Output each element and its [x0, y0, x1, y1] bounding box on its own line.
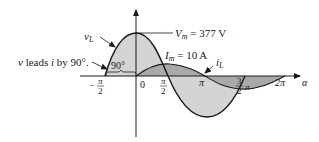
svg-text:2: 2 — [161, 86, 166, 96]
svg-text:2: 2 — [98, 86, 103, 96]
vl-pointer-arrow — [100, 37, 115, 47]
il-pointer-arrow — [205, 66, 213, 73]
waveform-diagram: Vm = 377 V Im = 10 A iL vL v leads i by … — [0, 0, 319, 142]
lead-statement: v leads i by 90°. — [18, 56, 89, 68]
svg-text:2: 2 — [237, 86, 242, 96]
lead-pointer-arrow — [92, 62, 107, 69]
phase-angle-label: 90° — [111, 60, 125, 71]
vl-label: vL — [84, 30, 94, 44]
tick-2pi: 2π — [275, 77, 286, 88]
tick-zero: 0 — [140, 79, 145, 90]
svg-text:−: − — [89, 80, 94, 90]
x-axis-label: α — [302, 77, 308, 88]
svg-text:π: π — [98, 76, 103, 86]
im-label: Im = 10 A — [164, 49, 207, 63]
svg-text:π: π — [161, 76, 166, 86]
il-label: iL — [216, 56, 224, 70]
tick-pi-2: π 2 — [160, 76, 167, 96]
tick-neg-pi-2: − π 2 — [89, 76, 104, 96]
vm-label: Vm = 377 V — [175, 27, 226, 41]
svg-text:3: 3 — [237, 76, 242, 86]
svg-text:π: π — [245, 82, 250, 92]
